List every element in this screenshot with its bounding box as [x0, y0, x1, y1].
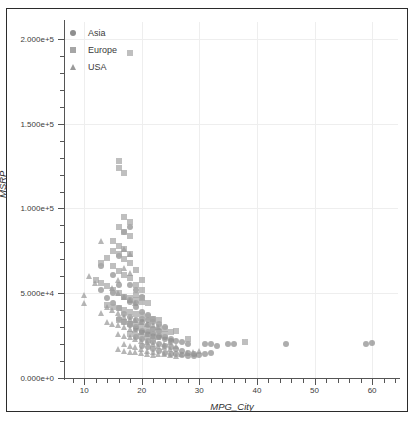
x-tick-label: 10 — [80, 386, 89, 395]
x-tick-minor — [361, 379, 362, 383]
data-point-usa — [92, 280, 98, 286]
legend-label-europe: Europe — [88, 45, 117, 55]
data-point-asia — [231, 341, 237, 347]
data-point-usa — [132, 300, 138, 306]
x-axis-line — [62, 378, 400, 379]
data-point-usa — [81, 300, 87, 306]
x-tick-minor — [188, 379, 189, 383]
gridline-horizontal — [64, 124, 398, 125]
y-axis-line — [64, 20, 65, 380]
legend: Asia Europe USA — [66, 24, 152, 75]
data-point-europe — [133, 267, 139, 273]
x-axis-title: MPG_City — [210, 401, 253, 412]
data-point-usa — [81, 292, 87, 298]
data-point-usa — [86, 273, 92, 279]
x-tick-minor — [107, 379, 108, 383]
data-point-usa — [98, 238, 104, 244]
x-tick-minor — [153, 379, 154, 383]
data-point-europe — [139, 287, 145, 293]
gridline-vertical — [257, 22, 258, 378]
circle-marker-icon — [66, 30, 80, 36]
scatter-plot: 0.000e+05.000e+41.000e+51.500e+52.000e+5… — [0, 0, 416, 426]
gridline-horizontal — [64, 208, 398, 209]
x-tick-label: 20 — [137, 386, 146, 395]
x-tick — [199, 379, 200, 385]
x-tick-minor — [338, 379, 339, 383]
y-tick-label: 1.500e+5 — [0, 119, 54, 128]
data-point-europe — [185, 336, 191, 342]
data-point-europe — [104, 255, 110, 261]
data-point-usa — [167, 339, 173, 345]
data-point-asia — [208, 350, 214, 356]
x-tick-minor — [280, 379, 281, 383]
data-point-europe — [127, 219, 133, 225]
data-point-usa — [155, 334, 161, 340]
legend-label-usa: USA — [88, 62, 107, 72]
x-tick — [315, 379, 316, 385]
square-marker-icon — [66, 47, 80, 53]
x-tick-minor — [268, 379, 269, 383]
legend-item-usa[interactable]: USA — [66, 58, 152, 75]
x-tick — [372, 379, 373, 385]
x-tick-label: 40 — [252, 386, 261, 395]
x-tick-minor — [326, 379, 327, 383]
data-point-europe — [145, 300, 151, 306]
data-point-europe — [127, 260, 133, 266]
x-tick-minor — [349, 379, 350, 383]
data-point-europe — [121, 170, 127, 176]
x-tick-minor — [395, 379, 396, 383]
y-axis-title: MSRP — [0, 171, 8, 198]
x-tick-minor — [176, 379, 177, 383]
data-point-europe — [116, 251, 122, 257]
data-point-usa — [173, 343, 179, 349]
data-point-europe — [116, 158, 122, 164]
x-tick-minor — [119, 379, 120, 383]
x-tick — [257, 379, 258, 385]
gridline-vertical — [84, 22, 85, 378]
x-tick-label: 60 — [368, 386, 377, 395]
y-tick-label: 2.000e+5 — [0, 34, 54, 43]
x-tick-minor — [245, 379, 246, 383]
data-point-asia — [208, 341, 214, 347]
gridline-vertical — [315, 22, 316, 378]
x-tick-label: 50 — [310, 386, 319, 395]
legend-item-europe[interactable]: Europe — [66, 41, 152, 58]
x-tick — [142, 379, 143, 385]
legend-label-asia: Asia — [88, 28, 106, 38]
x-tick-minor — [303, 379, 304, 383]
data-point-asia — [283, 341, 289, 347]
data-point-europe — [242, 339, 248, 345]
data-point-europe — [139, 277, 145, 283]
data-point-asia — [214, 343, 220, 349]
x-tick-minor — [222, 379, 223, 383]
x-tick-minor — [291, 379, 292, 383]
y-tick-label: 5.000e+4 — [0, 289, 54, 298]
y-tick-label: 1.000e+5 — [0, 204, 54, 213]
data-point-europe — [173, 328, 179, 334]
gridline-vertical — [199, 22, 200, 378]
data-point-usa — [127, 270, 133, 276]
data-point-europe — [156, 317, 162, 323]
data-point-asia — [116, 282, 122, 288]
data-point-usa — [115, 277, 121, 283]
x-tick-minor — [234, 379, 235, 383]
x-tick-minor — [96, 379, 97, 383]
x-tick-minor — [165, 379, 166, 383]
data-point-usa — [155, 324, 161, 330]
legend-item-asia[interactable]: Asia — [66, 24, 152, 41]
data-point-usa — [196, 348, 202, 354]
triangle-marker-icon — [66, 64, 80, 70]
gridline-vertical — [372, 22, 373, 378]
data-point-europe — [127, 233, 133, 239]
data-point-europe — [127, 275, 133, 281]
data-point-europe — [110, 248, 116, 254]
x-tick-minor — [130, 379, 131, 383]
data-point-europe — [139, 295, 145, 301]
data-point-europe — [162, 326, 168, 332]
x-tick-minor — [384, 379, 385, 383]
x-tick-minor — [211, 379, 212, 383]
data-point-europe — [121, 256, 127, 262]
x-tick-label: 30 — [195, 386, 204, 395]
x-tick — [84, 379, 85, 385]
x-tick-minor — [73, 379, 74, 383]
